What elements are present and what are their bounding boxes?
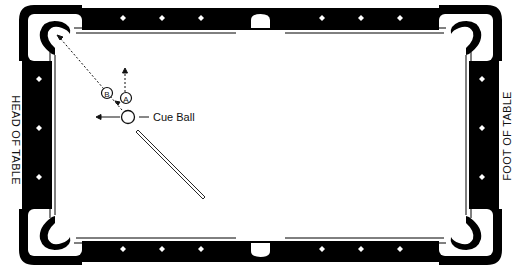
- playing-surface: [52, 30, 469, 241]
- cue-ball: [122, 111, 135, 124]
- pocket-bottom-side: [251, 243, 270, 257]
- cue-ball-label: Cue Ball: [153, 111, 195, 123]
- pool-table-diagram: Cue Ball A B: [0, 0, 521, 271]
- point-a-label: A: [123, 95, 129, 104]
- point-b-label: B: [104, 90, 109, 99]
- foot-of-table-label: FOOT OF TABLE: [501, 91, 513, 180]
- head-of-table-label: HEAD OF TABLE: [10, 95, 22, 185]
- pocket-top-side: [251, 14, 270, 28]
